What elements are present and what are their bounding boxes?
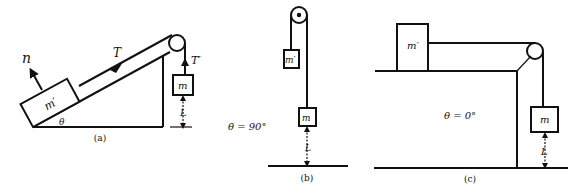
physics-diagram: m′ T n θ T′ m L (a) [0, 0, 583, 196]
tension-prime-label: T′ [191, 54, 201, 67]
angle-label: θ = 90° [228, 121, 266, 132]
pulley-bracket [517, 56, 531, 71]
height-label: L [179, 107, 187, 118]
angle-label: θ = 0° [444, 110, 476, 121]
panel-c: m′ m L θ = 0° (c) [374, 24, 568, 184]
string-incline [79, 35, 172, 86]
block-m-label: m [540, 114, 549, 125]
block-m-prime-label: m′ [407, 40, 419, 51]
block-m-prime: m′ [21, 79, 80, 127]
block-m-label: m [302, 113, 311, 123]
normal-force-label: n [22, 50, 31, 66]
tension-prime-arrow [181, 58, 189, 66]
normal-force-arrow [32, 72, 42, 90]
pulley-icon [169, 35, 185, 51]
block-m-label: m [178, 80, 187, 91]
caption-a: (a) [94, 133, 106, 143]
pulley-axle-icon [297, 13, 301, 17]
height-label: L [540, 146, 548, 157]
angle-theta-label: θ [59, 117, 65, 127]
panel-a: m′ T n θ T′ m L (a) [21, 35, 202, 143]
panel-b: m′ m L θ = 90° (b) [228, 7, 348, 183]
height-label: L [304, 143, 311, 153]
tension-label: T [113, 46, 122, 60]
caption-c: (c) [464, 174, 476, 184]
caption-b: (b) [301, 173, 314, 183]
pulley-icon [527, 43, 543, 59]
block-m-prime-label: m′ [285, 55, 296, 65]
